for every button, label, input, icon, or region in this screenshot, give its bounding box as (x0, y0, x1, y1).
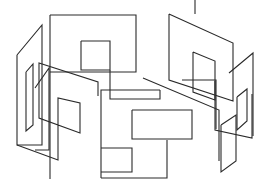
line-drawing (0, 0, 268, 179)
spiral-frames-figure (0, 0, 268, 179)
